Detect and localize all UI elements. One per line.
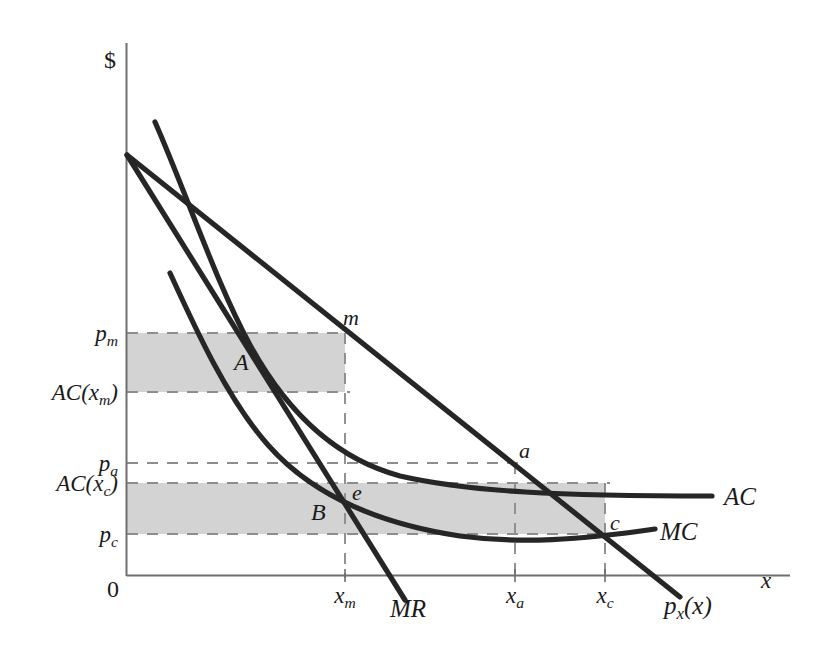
x-axis-label: x [760, 568, 772, 593]
curve-label-mc: MC [659, 518, 698, 545]
curve-label-demand: px(x) [662, 592, 712, 623]
y-tick-labels: pm AC(xm) pa AC(xc) pc [50, 321, 118, 550]
x-tick-labels: xm xa xc [333, 583, 613, 611]
y-tick-label-pc: pc [98, 522, 119, 550]
x-tick-label-xm: xm [333, 583, 356, 611]
economics-diagram: pm AC(xm) pa AC(xc) pc xm xa xc $ 0 x AC… [0, 0, 813, 662]
x-tick-label-xc: xc [595, 583, 613, 611]
y-axis-label: $ [104, 47, 116, 73]
curve-label-ac: AC [722, 483, 756, 510]
region-label-A: A [232, 349, 249, 375]
point-label-m: m [343, 305, 359, 330]
region-label-B: B [311, 499, 326, 525]
shaded-regions [127, 333, 605, 534]
point-label-e: e [352, 480, 362, 505]
origin-label: 0 [107, 576, 119, 602]
point-label-c: c [610, 510, 620, 535]
chart-canvas: pm AC(xm) pa AC(xc) pc xm xa xc $ 0 x AC… [0, 0, 813, 662]
curve-label-mr: MR [389, 595, 426, 622]
x-tick-label-xa: xa [505, 583, 524, 611]
point-label-a: a [519, 438, 530, 463]
y-tick-label-pm: pm [93, 321, 118, 349]
average-cost-curve [155, 122, 712, 496]
y-tick-label-ac-xm: AC(xm) [50, 380, 118, 408]
